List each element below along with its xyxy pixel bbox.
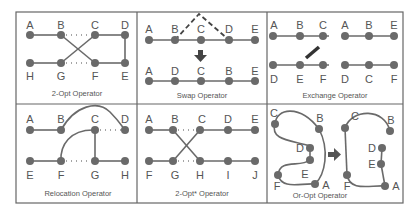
node [251, 157, 259, 165]
node [26, 126, 34, 134]
node-c [91, 31, 99, 39]
node-label: D [171, 65, 179, 77]
panel-caption: 2-Opt Operator [52, 89, 103, 98]
node-label: E [296, 73, 303, 85]
node-label: F [391, 73, 398, 85]
node-label: D [341, 73, 349, 85]
node-label: D [121, 113, 129, 125]
node-label: C [197, 65, 205, 77]
node [341, 32, 349, 40]
panel-caption: Exchange Operator [302, 91, 368, 100]
node-label: B [365, 19, 372, 31]
node-label: E [26, 169, 33, 181]
node [271, 120, 279, 128]
node [171, 77, 179, 85]
node [315, 125, 323, 133]
node [251, 77, 259, 85]
node [145, 36, 153, 44]
node [296, 61, 304, 69]
node-label: D [225, 23, 233, 35]
node-label: B [171, 113, 178, 125]
node-label: F [92, 70, 99, 82]
node-label: D [270, 73, 278, 85]
node-label: C [270, 107, 278, 119]
node [169, 126, 177, 134]
node [269, 32, 277, 40]
node [225, 77, 233, 85]
node [145, 157, 153, 165]
node-label: D [224, 113, 232, 125]
node-label: H [26, 70, 34, 82]
node-label: F [274, 180, 281, 192]
panel-swap: A B C D E A D C B E Swap Operator [145, 14, 259, 100]
node [57, 157, 65, 165]
node-label: A [270, 19, 278, 31]
node [169, 157, 177, 165]
operators-figure: A B C D H G F E 2-Opt Operator A B C D E… [0, 0, 420, 220]
node [196, 126, 204, 134]
node-f [91, 59, 99, 67]
panel-exchange: A B C D E F A B E D C F Exchange Operato… [269, 19, 398, 100]
node [91, 126, 99, 134]
node-label: F [58, 169, 65, 181]
node-label: B [316, 112, 323, 124]
node [171, 36, 179, 44]
node-label: C [198, 113, 206, 125]
node [197, 36, 205, 44]
node-d [121, 31, 129, 39]
node-h [26, 59, 34, 67]
node [224, 126, 232, 134]
node-label: D [368, 142, 376, 154]
node-label: C [319, 19, 327, 31]
node [197, 77, 205, 85]
node-label: B [387, 114, 394, 126]
node-label: A [26, 19, 34, 31]
node-label: A [322, 179, 330, 191]
node-label: B [225, 65, 232, 77]
node [377, 160, 385, 168]
node-label: D [121, 19, 129, 31]
node-label: G [57, 70, 66, 82]
exchange-arrow-icon [306, 47, 319, 58]
node-label: G [91, 169, 100, 181]
node [251, 36, 259, 44]
node-label: B [296, 19, 303, 31]
node [390, 61, 398, 69]
node-label: A [26, 113, 34, 125]
node [121, 126, 129, 134]
panel-2-opt-star: A B C D E F G H I J 2-Opt* Operator [145, 113, 259, 198]
node [225, 36, 233, 44]
edges [30, 35, 125, 63]
node [91, 157, 99, 165]
node-label: E [301, 168, 308, 180]
node-label: A [145, 113, 153, 125]
node-label: E [121, 70, 128, 82]
node-label: E [390, 19, 397, 31]
node [26, 157, 34, 165]
node-label: C [365, 73, 373, 85]
node [196, 157, 204, 165]
node-label: B [57, 19, 64, 31]
node [274, 171, 282, 179]
node-b [57, 31, 65, 39]
node-label: E [251, 23, 258, 35]
node-label: C [91, 19, 99, 31]
node [251, 126, 259, 134]
node [306, 144, 314, 152]
node [311, 180, 319, 188]
node [224, 157, 232, 165]
node [296, 32, 304, 40]
panel-relocation: A B C D E F G H Relocation Operator [26, 106, 129, 198]
node [343, 171, 351, 179]
node-label: B [57, 113, 64, 125]
node-label: C [351, 110, 359, 122]
node [378, 144, 386, 152]
node [145, 126, 153, 134]
node [306, 156, 314, 164]
node-e [121, 59, 129, 67]
node [386, 127, 394, 135]
node-g [57, 59, 65, 67]
node [365, 61, 373, 69]
panel-or-opt: C B D E F A C B D E F A Or-Opt Operator [270, 107, 400, 200]
node-label: E [368, 158, 375, 170]
